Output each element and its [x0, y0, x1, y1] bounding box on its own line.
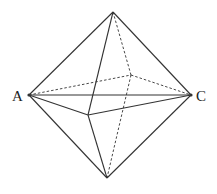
- vertex-label-c: C: [196, 88, 206, 104]
- edge-top-A: [29, 12, 113, 95]
- vertex-dot-c: [189, 93, 192, 96]
- edge-top-front: [88, 12, 113, 115]
- visible-edges: [29, 12, 191, 178]
- edge-top-C: [113, 12, 191, 95]
- hidden-edge-back-bottom: [107, 75, 131, 178]
- octahedron-diagram: A C: [0, 0, 217, 194]
- vertex-label-a: A: [12, 88, 23, 104]
- edge-front-C: [88, 95, 191, 115]
- edge-A-bottom: [29, 95, 107, 178]
- vertex-dot-a: [27, 93, 30, 96]
- hidden-edge-A-back: [29, 75, 131, 95]
- edge-C-bottom: [107, 95, 191, 178]
- octahedron-figure: A C: [0, 0, 217, 194]
